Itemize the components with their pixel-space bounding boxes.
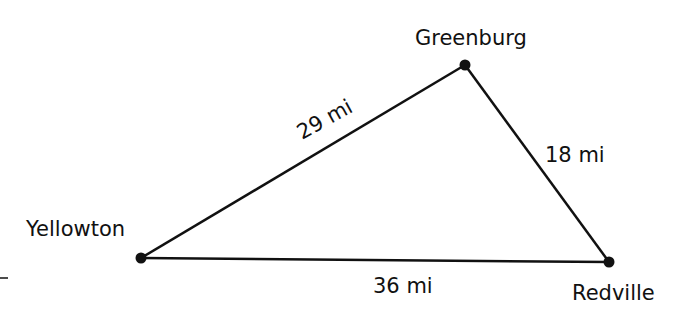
diagram-canvas: Greenburg Yellowton Redville 29 mi 18 mi…: [0, 0, 693, 325]
town-dot-yellowton: [136, 253, 147, 264]
town-label-yellowton: Yellowton: [25, 217, 125, 241]
distance-label-greenburg-redville: 18 mi: [545, 143, 605, 167]
triangle-map-diagram: Greenburg Yellowton Redville 29 mi 18 mi…: [0, 0, 693, 325]
town-dot-redville: [604, 257, 615, 268]
road-yellowton-redville: [141, 258, 609, 262]
town-dot-greenburg: [460, 60, 471, 71]
town-label-redville: Redville: [572, 281, 655, 305]
distance-label-yellowton-redville: 36 mi: [373, 274, 433, 298]
distance-label-yellowton-greenburg: 29 mi: [293, 94, 357, 144]
road-yellowton-greenburg: [141, 65, 465, 258]
town-label-greenburg: Greenburg: [415, 26, 527, 50]
